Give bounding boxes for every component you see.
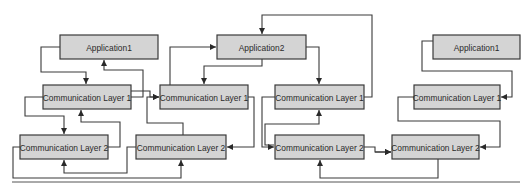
- node-cl1_c: Communication Layer 1: [275, 85, 364, 109]
- node-label: Application1: [454, 43, 500, 53]
- arrowhead-icon: [83, 78, 89, 84]
- arrowhead-icon: [385, 149, 391, 155]
- arrowhead-icon: [210, 44, 216, 50]
- arrowhead-icon: [178, 160, 184, 166]
- arrowhead-icon: [78, 110, 84, 116]
- node-label: Application2: [239, 43, 285, 53]
- node-cl1_d: Communication Layer 1: [413, 85, 502, 109]
- node-label: Communication Layer 1: [43, 93, 132, 103]
- layered-communication-diagram: Application1Communication Layer 1Communi…: [0, 0, 532, 193]
- node-label: Communication Layer 2: [275, 143, 364, 153]
- node-cl1_a: Communication Layer 1: [43, 85, 132, 109]
- node-app1_right: Application1: [433, 35, 520, 59]
- arrowhead-icon: [316, 78, 322, 84]
- node-label: Communication Layer 1: [413, 93, 502, 103]
- node-label: Application1: [86, 43, 132, 53]
- arrowhead-icon: [259, 28, 265, 34]
- arrowhead-icon: [61, 128, 67, 134]
- node-label: Communication Layer 2: [20, 143, 109, 153]
- arrowhead-icon: [317, 160, 323, 166]
- node-cl2_c: Communication Layer 2: [275, 135, 364, 159]
- node-label: Communication Layer 1: [275, 93, 364, 103]
- edge-cl1_c-to-cl2_c: [262, 97, 275, 147]
- node-cl2_b: Communication Layer 2: [136, 135, 226, 159]
- arrowhead-icon: [227, 144, 233, 150]
- edge-cl2_d-to-cl2_c: [320, 159, 438, 178]
- arrowhead-icon: [101, 60, 107, 66]
- node-cl2_a: Communication Layer 2: [20, 135, 109, 159]
- arrowhead-icon: [61, 160, 67, 166]
- node-cl1_b: Communication Layer 1: [160, 85, 249, 109]
- arrowhead-icon: [480, 144, 486, 150]
- arrowhead-icon: [501, 94, 507, 100]
- arrowhead-icon: [201, 78, 207, 84]
- node-label: Communication Layer 1: [160, 93, 249, 103]
- arrowhead-icon: [153, 94, 159, 100]
- node-label: Communication Layer 2: [391, 143, 480, 153]
- arrowhead-icon: [316, 110, 322, 116]
- edge-app2-to-cl1_b: [204, 59, 262, 84]
- node-cl2_d: Communication Layer 2: [391, 135, 480, 159]
- node-app1_left: Application1: [60, 35, 158, 59]
- node-app2: Application2: [217, 35, 306, 59]
- node-label: Communication Layer 2: [137, 143, 226, 153]
